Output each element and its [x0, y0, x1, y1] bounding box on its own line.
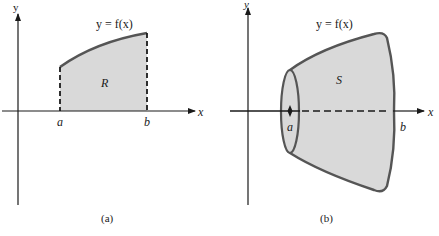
y-axis-label-b: y — [243, 0, 249, 10]
panel-a: y x y = f(x) R a b (a) — [2, 1, 204, 225]
tick-a-label-b: a — [287, 120, 293, 134]
tick-b-label: b — [144, 115, 150, 129]
y-axis-label-a: y — [13, 1, 19, 13]
x-axis-label-b: x — [427, 105, 434, 119]
panel-b: y x y = f(x) S a b (b) — [230, 0, 434, 225]
solid-label-s: S — [336, 73, 342, 87]
caption-b: (b) — [320, 212, 333, 225]
figure: y x y = f(x) R a b (a) y x y = f(x) S a … — [0, 0, 439, 236]
function-label-b: y = f(x) — [316, 17, 353, 31]
function-label-a: y = f(x) — [96, 17, 133, 31]
tick-b-label-b: b — [400, 120, 406, 134]
x-axis-label-a: x — [197, 105, 204, 119]
tick-a-label: a — [57, 115, 63, 129]
region-label-r: R — [100, 76, 109, 90]
caption-a: (a) — [101, 212, 114, 225]
